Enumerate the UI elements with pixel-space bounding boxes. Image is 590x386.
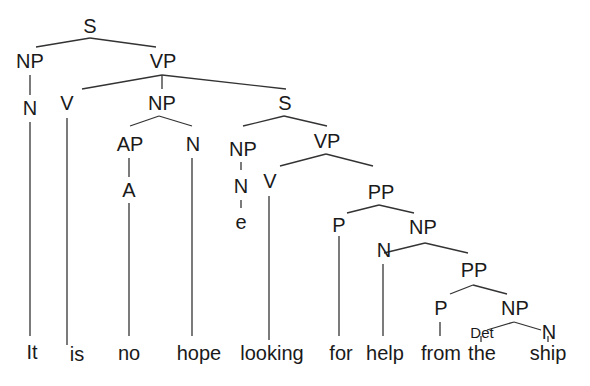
node-pp-from: PP [461, 260, 488, 280]
node-pp-for: PP [368, 182, 395, 202]
node-n-hope: N [186, 134, 200, 154]
node-s-embedded: S [278, 93, 291, 113]
word-looking: looking [240, 342, 303, 364]
node-det-the: Det [470, 323, 493, 343]
word-hope: hope [177, 342, 222, 364]
word-the: the [468, 342, 496, 364]
word-it: It [26, 341, 37, 363]
node-n-help: N [377, 240, 391, 260]
node-np-empty: NP [229, 139, 257, 159]
node-n-ship: N [542, 322, 556, 342]
node-n-it: N [23, 98, 37, 118]
node-vp-embedded: VP [314, 131, 341, 151]
word-ship: ship [530, 342, 567, 364]
node-np-object: NP [148, 93, 176, 113]
node-empty-e: e [235, 212, 246, 232]
node-s-root: S [83, 16, 96, 36]
node-p-for: P [332, 215, 345, 235]
word-help: help [366, 342, 404, 364]
node-v-is: V [60, 93, 73, 113]
word-no: no [118, 342, 140, 364]
node-ap: AP [117, 134, 144, 154]
node-p-from: P [434, 298, 447, 318]
tree-edges [0, 0, 590, 386]
node-np-help: NP [409, 217, 437, 237]
node-n-empty: N [234, 176, 248, 196]
word-for: for [329, 342, 352, 364]
node-np-ship: NP [501, 298, 529, 318]
node-a-no: A [122, 180, 135, 200]
node-v-looking: V [263, 171, 276, 191]
node-vp-main: VP [150, 51, 177, 71]
node-np-subject: NP [16, 51, 44, 71]
word-from: from [421, 342, 461, 364]
word-is: is [70, 343, 84, 365]
